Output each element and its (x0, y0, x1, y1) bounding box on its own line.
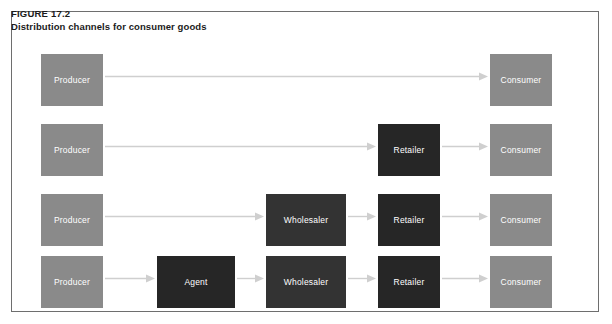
node-label: Producer (54, 277, 90, 287)
node-producer: Producer (41, 54, 103, 106)
node-agent: Agent (157, 256, 235, 308)
node-producer: Producer (41, 256, 103, 308)
flow-arrow (105, 142, 376, 151)
flow-arrow (442, 274, 488, 283)
node-consumer: Consumer (490, 124, 552, 176)
node-label: Agent (184, 277, 207, 287)
node-producer: Producer (41, 194, 103, 246)
flow-arrow (348, 212, 376, 221)
node-label: Retailer (394, 215, 425, 225)
flow-arrow (105, 212, 264, 221)
node-wholesaler: Wholesaler (266, 194, 346, 246)
node-label: Wholesaler (284, 277, 329, 287)
node-label: Consumer (501, 145, 542, 155)
flow-arrow (105, 72, 488, 81)
node-label: Wholesaler (284, 215, 329, 225)
node-label: Producer (54, 75, 90, 85)
node-producer: Producer (41, 124, 103, 176)
node-label: Producer (54, 145, 90, 155)
node-retailer: Retailer (378, 256, 440, 308)
flow-arrow (442, 142, 488, 151)
node-label: Consumer (501, 215, 542, 225)
node-consumer: Consumer (490, 194, 552, 246)
node-retailer: Retailer (378, 194, 440, 246)
flow-arrow (348, 274, 376, 283)
node-consumer: Consumer (490, 54, 552, 106)
node-label: Producer (54, 215, 90, 225)
node-wholesaler: Wholesaler (266, 256, 346, 308)
flow-arrow (105, 274, 155, 283)
node-retailer: Retailer (378, 124, 440, 176)
node-label: Retailer (394, 145, 425, 155)
flow-arrow (237, 274, 264, 283)
node-label: Consumer (501, 75, 542, 85)
distribution-channels-diagram: ProducerConsumerProducerRetailerConsumer… (0, 0, 612, 324)
node-label: Retailer (394, 277, 425, 287)
node-consumer: Consumer (490, 256, 552, 308)
flow-arrow (442, 212, 488, 221)
node-label: Consumer (501, 277, 542, 287)
